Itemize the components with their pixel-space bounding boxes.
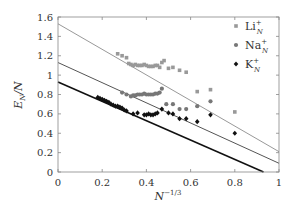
fit-line xyxy=(58,82,264,172)
circle-marker xyxy=(124,92,128,96)
circle-marker xyxy=(171,102,175,106)
series-li xyxy=(116,52,237,114)
square-marker xyxy=(234,24,238,28)
y-tick-label: 0.6 xyxy=(37,108,53,119)
square-marker xyxy=(167,67,171,71)
diamond-marker xyxy=(135,110,140,115)
legend-label: Na+N xyxy=(245,38,269,55)
x-tick-label: 0.2 xyxy=(94,177,110,188)
circle-marker xyxy=(184,107,188,111)
square-marker xyxy=(120,54,124,58)
square-marker xyxy=(162,59,166,63)
diamond-marker xyxy=(234,61,239,66)
x-tick-label: 1 xyxy=(276,177,282,188)
square-marker xyxy=(195,90,199,94)
legend-label: K+N xyxy=(245,57,261,74)
legend-item-li: Li+N xyxy=(234,19,264,36)
axes: 00.20.40.60.8100.20.40.60.811.21.41.6 xyxy=(37,12,282,189)
x-tick-label: 0.4 xyxy=(138,177,154,188)
y-tick-label: 1.2 xyxy=(37,50,53,61)
circle-marker xyxy=(195,104,199,108)
square-marker xyxy=(125,56,129,60)
square-marker xyxy=(116,52,120,56)
circle-marker xyxy=(158,90,162,94)
diamond-marker xyxy=(233,131,238,136)
chart: 00.20.40.60.8100.20.40.60.811.21.41.6 Li… xyxy=(0,0,298,206)
circle-marker xyxy=(164,102,168,106)
y-tick-label: 1.4 xyxy=(37,31,53,42)
y-tick-label: 0.2 xyxy=(37,147,53,158)
y-axis-label: EN/N xyxy=(12,81,27,110)
legend-label: Li+N xyxy=(245,19,264,36)
circle-marker xyxy=(208,99,212,103)
square-marker xyxy=(209,88,213,92)
circle-marker xyxy=(234,43,238,47)
legend-item-k: K+N xyxy=(234,57,261,74)
y-tick-label: 1.6 xyxy=(37,12,53,23)
legend-item-na: Na+N xyxy=(234,38,269,55)
y-tick-label: 1 xyxy=(47,70,53,81)
data-markers xyxy=(95,52,237,136)
circle-marker xyxy=(120,90,124,94)
y-tick-label: 0.8 xyxy=(37,89,53,100)
square-marker xyxy=(233,110,237,114)
x-axis-label: N−1/3 xyxy=(154,189,182,203)
circle-marker xyxy=(177,107,181,111)
y-tick-label: 0 xyxy=(47,167,53,178)
y-tick-label: 0.4 xyxy=(37,128,53,139)
x-tick-label: 0 xyxy=(55,177,61,188)
square-marker xyxy=(178,68,182,72)
square-marker xyxy=(171,66,175,70)
circle-marker xyxy=(160,87,164,91)
square-marker xyxy=(184,70,188,74)
legend: Li+NNa+NK+N xyxy=(234,19,269,74)
square-marker xyxy=(158,66,162,70)
diamond-marker xyxy=(195,119,200,124)
x-tick-label: 0.6 xyxy=(183,177,199,188)
diamond-marker xyxy=(166,110,171,115)
x-tick-label: 0.8 xyxy=(227,177,243,188)
